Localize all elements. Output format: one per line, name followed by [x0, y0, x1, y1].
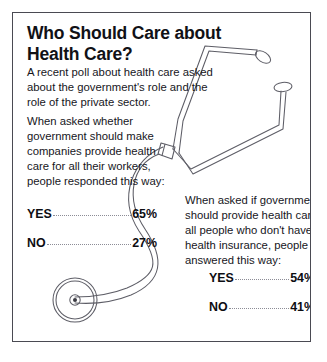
dotted-leader: [235, 279, 289, 280]
title-line-2: Health Care?: [27, 44, 257, 65]
poll-one-result-no: NO 27%: [27, 236, 157, 250]
result-label: YES: [209, 271, 234, 285]
result-value: 41%: [290, 300, 311, 314]
poll-one-result-yes: YES 65%: [27, 207, 157, 221]
poll-two-result-no: NO 41%: [209, 300, 311, 314]
dotted-leader: [229, 308, 290, 309]
result-value: 65%: [132, 207, 157, 221]
result-label: NO: [27, 236, 46, 250]
poll-two-results: YES 54% NO 41%: [209, 271, 311, 329]
poll-one-results: YES 65% NO 27%: [27, 207, 157, 265]
title-line-1: Who Should Care about: [27, 23, 257, 44]
infographic-poster: Who Should Care about Health Care? A rec…: [12, 12, 311, 342]
page-title: Who Should Care about Health Care?: [27, 23, 257, 64]
poll-two-question: When asked if government should provide …: [185, 193, 311, 268]
result-value: 27%: [132, 236, 157, 250]
poll-one-question: When asked whether government should mak…: [27, 114, 179, 189]
result-value: 54%: [290, 271, 311, 285]
poll-two-result-yes: YES 54%: [209, 271, 311, 285]
result-label: NO: [209, 300, 228, 314]
chest-piece: [53, 278, 97, 322]
dotted-leader: [47, 244, 132, 245]
result-label: YES: [27, 207, 52, 221]
ear-tip-right: [274, 81, 293, 92]
intro-paragraph: A recent poll about health care asked ab…: [27, 65, 227, 110]
dotted-leader: [53, 215, 131, 216]
